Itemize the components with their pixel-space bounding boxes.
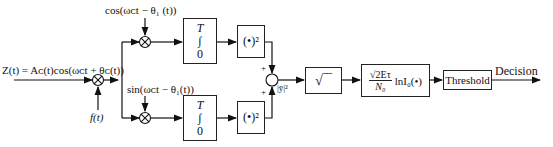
sin-carrier-label: sin(ωᴄt − θ₁(t)) bbox=[127, 84, 194, 95]
bessel-log-block: √2Eτ N₀ lnI₀(•) bbox=[361, 64, 430, 97]
input-signal-label: Z(t) = Aᴄ(t)cos(ωᴄt + θᴄ(t)) bbox=[2, 65, 124, 76]
log-bessel-function: lnI₀(•) bbox=[395, 75, 422, 87]
squarer-label: (•)² bbox=[243, 34, 259, 49]
cos-carrier-label: cos(ωᴄt − θ₁ (t)) bbox=[105, 5, 176, 16]
summer-plus-top: + bbox=[261, 63, 266, 73]
fraction-numerator: √2Eτ bbox=[369, 69, 392, 81]
square-root-icon: √‾‾ bbox=[315, 73, 332, 89]
integrator-lower-limit: 0 bbox=[197, 48, 203, 61]
integrator-block-top: T ∫ 0 bbox=[183, 18, 217, 64]
square-root-block: √‾‾ bbox=[305, 67, 342, 94]
decision-output-label: Decision bbox=[495, 65, 538, 77]
threshold-block: Threshold bbox=[443, 70, 492, 90]
squarer-block-top: (•)² bbox=[237, 25, 265, 58]
integrator-lower-limit: 0 bbox=[197, 125, 203, 138]
reference-signal-label: f(t) bbox=[90, 112, 103, 123]
squarer-label: (•)² bbox=[243, 110, 259, 125]
integral-icon: ∫ bbox=[198, 112, 201, 125]
integrator-upper-limit: T bbox=[197, 22, 204, 35]
integral-icon: ∫ bbox=[198, 35, 201, 48]
snr-fraction: √2Eτ N₀ bbox=[369, 69, 392, 92]
integrator-block-bottom: T ∫ 0 bbox=[183, 95, 217, 141]
threshold-label: Threshold bbox=[445, 74, 490, 86]
integrator-upper-limit: T bbox=[197, 99, 204, 112]
fraction-denominator: N₀ bbox=[375, 81, 385, 92]
summer-output-label: |ȳ|² bbox=[277, 84, 288, 93]
summer-plus-bottom: + bbox=[261, 87, 266, 97]
squarer-block-bottom: (•)² bbox=[237, 101, 265, 134]
